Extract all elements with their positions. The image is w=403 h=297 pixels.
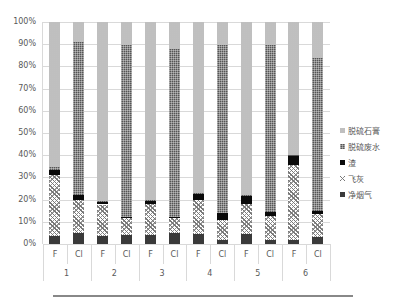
bar-segment-ww — [145, 200, 156, 201]
bar-segment-slag — [145, 201, 156, 204]
bar-segment-gas — [145, 235, 156, 244]
stacked-bar — [97, 22, 108, 244]
bar-segment-gyp — [49, 22, 60, 167]
bar-segment-ash — [288, 165, 299, 239]
legend-item: 脱硫石膏 — [340, 122, 380, 138]
x-group-label: 5 — [234, 269, 281, 278]
group-divider — [91, 244, 92, 281]
bar-segment-ww — [193, 193, 204, 194]
stacked-bar — [241, 22, 252, 244]
y-tick-label: 10% — [0, 217, 36, 227]
stacked-bar — [73, 22, 84, 244]
bar-segment-slag — [288, 155, 299, 165]
stacked-bar — [145, 22, 156, 244]
bar-segment-slag — [169, 217, 180, 218]
bar-segment-gas — [193, 234, 204, 244]
legend: 脱硫石膏脱硫废水渣飞灰净烟气 — [340, 122, 380, 202]
stacked-bar — [312, 22, 323, 244]
bar-segment-gas — [241, 234, 252, 244]
y-tick-label: 20% — [0, 195, 36, 205]
bar-segment-gas — [49, 236, 60, 244]
category-divider — [115, 244, 116, 264]
stacked-bar — [288, 22, 299, 244]
stacked-bar — [121, 22, 132, 244]
x-group-label: 4 — [186, 269, 233, 278]
stacked-bar — [169, 22, 180, 244]
x-category-label: Cl — [163, 250, 187, 259]
legend-swatch-icon — [340, 192, 345, 197]
bar-segment-gyp — [169, 22, 180, 49]
y-tick-label: 100% — [0, 17, 36, 27]
bar-segment-gas — [288, 240, 299, 244]
bar-segment-gyp — [217, 22, 228, 45]
bar-segment-gyp — [121, 22, 132, 45]
bar-segment-ash — [49, 175, 60, 235]
y-tick-label: 70% — [0, 84, 36, 94]
y-tick-label: 30% — [0, 172, 36, 182]
stacked-bar — [193, 22, 204, 244]
bar-segment-gas — [169, 233, 180, 244]
bar-segment-ash — [121, 218, 132, 235]
group-divider — [234, 244, 235, 281]
bar-segment-slag — [265, 212, 276, 216]
bar-segment-ash — [217, 220, 228, 240]
x-category-label: Cl — [67, 250, 91, 259]
bar-segment-ww — [288, 155, 299, 156]
stacked-bar — [49, 22, 60, 244]
gridline — [43, 133, 330, 134]
x-category-label: Cl — [258, 250, 282, 259]
bar-segment-gas — [312, 237, 323, 244]
bar-segment-ww — [97, 201, 108, 202]
gridline — [43, 22, 330, 23]
bar-segment-slag — [49, 170, 60, 176]
bar-segment-gyp — [97, 22, 108, 201]
bar-segment-slag — [312, 211, 323, 214]
stacked-bar — [217, 22, 228, 244]
bar-segment-slag — [217, 213, 228, 220]
legend-label: 脱硫石膏 — [348, 125, 380, 136]
group-divider — [139, 244, 140, 281]
bar-segment-ash — [73, 200, 84, 233]
category-divider — [258, 244, 259, 264]
gridline — [43, 222, 330, 223]
x-category-label: F — [282, 250, 306, 259]
bar-segment-ww — [241, 195, 252, 196]
x-category-label: Cl — [306, 250, 330, 259]
legend-label: 脱硫废水 — [348, 141, 380, 152]
stacked-bar — [265, 22, 276, 244]
category-divider — [163, 244, 164, 264]
bar-segment-gyp — [265, 22, 276, 45]
legend-swatch-icon — [340, 176, 345, 181]
bar-segment-slag — [241, 196, 252, 204]
y-tick-label: 0% — [0, 239, 36, 249]
category-divider — [67, 244, 68, 264]
legend-item: 净烟气 — [340, 186, 380, 202]
bar-segment-slag — [97, 202, 108, 205]
gridline — [43, 200, 330, 201]
x-group-label: 3 — [139, 269, 186, 278]
x-category-label: F — [139, 250, 163, 259]
bar-segment-slag — [121, 217, 132, 218]
bar-segment-ww — [73, 42, 84, 195]
bar-segment-gyp — [73, 22, 84, 42]
y-tick-label: 40% — [0, 150, 36, 160]
legend-label: 净烟气 — [348, 189, 372, 200]
gridline — [43, 177, 330, 178]
bar-segment-ash — [145, 204, 156, 235]
bar-segment-ww — [265, 45, 276, 212]
y-tick-label: 90% — [0, 39, 36, 49]
y-tick-label: 80% — [0, 61, 36, 71]
bar-segment-gas — [73, 233, 84, 244]
x-group-label: 2 — [91, 269, 138, 278]
bar-segment-ash — [169, 218, 180, 232]
legend-swatch-icon — [340, 160, 345, 165]
gridline — [43, 155, 330, 156]
bar-segment-gyp — [145, 22, 156, 200]
y-tick-label: 50% — [0, 128, 36, 138]
bar-segment-ww — [121, 45, 132, 217]
bar-segment-gas — [97, 236, 108, 244]
legend-swatch-icon — [340, 128, 345, 133]
bar-segment-ash — [97, 205, 108, 237]
legend-swatch-icon — [340, 144, 345, 149]
y-tick-label: 60% — [0, 106, 36, 116]
